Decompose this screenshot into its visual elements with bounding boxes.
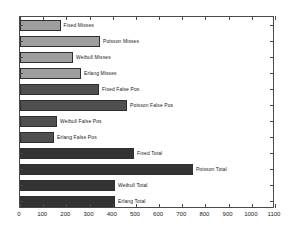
bar-label: Erlang Misses <box>84 71 117 76</box>
x-axis-tick-label: 200 <box>60 211 70 217</box>
y-axis-tick-left <box>19 89 23 90</box>
x-axis-tick-label: 100 <box>37 211 47 217</box>
bar-row: Fixed False Pos <box>20 84 275 95</box>
x-axis-tick-top <box>66 16 67 20</box>
x-axis-tick <box>20 204 21 208</box>
bar-label: Weibull Total <box>118 183 147 188</box>
y-axis-tick-right <box>270 105 274 106</box>
x-axis-tick-top <box>182 16 183 20</box>
y-axis-tick-right <box>270 41 274 42</box>
y-axis-tick-right <box>270 201 274 202</box>
bar-row: Fixed Misses <box>20 20 275 31</box>
y-axis-tick-right <box>270 89 274 90</box>
x-axis-tick-label: 300 <box>84 211 94 217</box>
x-axis-tick <box>229 204 230 208</box>
bar-label: Erlang False Pos <box>57 135 97 140</box>
y-axis-tick-right <box>270 185 274 186</box>
x-axis-tick <box>159 204 160 208</box>
y-axis-tick-right <box>270 57 274 58</box>
y-axis-tick-left <box>19 25 23 26</box>
bar <box>20 180 115 191</box>
plot-area: Fixed MissesPoisson MissesWeibull Misses… <box>19 16 274 208</box>
bar-label: Fixed False Pos <box>102 87 139 92</box>
x-axis-tick-label: 0 <box>17 211 20 217</box>
x-axis-tick-top <box>20 16 21 20</box>
bar <box>20 52 73 63</box>
x-axis-tick-top <box>90 16 91 20</box>
bar-label: Fixed Total <box>137 151 162 156</box>
bar-label: Weibull False Pos <box>60 119 102 124</box>
bar-row: Weibull Misses <box>20 52 275 63</box>
bar-label: Fixed Misses <box>64 23 94 28</box>
x-axis-tick <box>252 204 253 208</box>
y-axis-tick-right <box>270 153 274 154</box>
y-axis-tick-left <box>19 41 23 42</box>
bar-row: Poisson Misses <box>20 36 275 47</box>
bar <box>20 36 100 47</box>
x-axis-tick-label: 900 <box>223 211 233 217</box>
y-axis-tick-left <box>19 153 23 154</box>
bar <box>20 68 81 79</box>
x-axis-tick-label: 1100 <box>268 211 281 217</box>
x-axis-tick <box>182 204 183 208</box>
y-axis-tick-left <box>19 121 23 122</box>
x-axis-tick-top <box>229 16 230 20</box>
y-axis-tick-left <box>19 73 23 74</box>
x-axis-tick-top <box>113 16 114 20</box>
y-axis-tick-left <box>19 201 23 202</box>
y-axis-tick-left <box>19 57 23 58</box>
bar <box>20 84 99 95</box>
y-axis-tick-left <box>19 185 23 186</box>
bar <box>20 116 57 127</box>
bar <box>20 100 127 111</box>
y-axis-tick-right <box>270 169 274 170</box>
x-axis-tick-top <box>43 16 44 20</box>
bar <box>20 132 54 143</box>
bar-row: Poisson Total <box>20 164 275 175</box>
x-axis-tick-top <box>252 16 253 20</box>
bar <box>20 148 134 159</box>
y-axis-tick-right <box>270 121 274 122</box>
bar-label: Poisson Misses <box>103 39 139 44</box>
bar-row: Fixed Total <box>20 148 275 159</box>
x-axis-tick <box>275 204 276 208</box>
bar <box>20 164 193 175</box>
x-axis-tick <box>66 204 67 208</box>
x-axis-tick <box>136 204 137 208</box>
x-axis-tick <box>43 204 44 208</box>
bar-row: Weibull Total <box>20 180 275 191</box>
y-axis-tick-right <box>270 25 274 26</box>
bar-row: Erlang Misses <box>20 68 275 79</box>
x-axis-tick-top <box>159 16 160 20</box>
x-axis-tick-label: 500 <box>130 211 140 217</box>
bar <box>20 196 115 207</box>
x-axis-tick-top <box>275 16 276 20</box>
x-axis-tick-top <box>136 16 137 20</box>
y-axis-tick-right <box>270 137 274 138</box>
bar-row: Weibull False Pos <box>20 116 275 127</box>
x-axis-tick-label: 700 <box>176 211 186 217</box>
x-axis-tick-top <box>205 16 206 20</box>
bar-chart: Fixed MissesPoisson MissesWeibull Misses… <box>0 0 294 241</box>
bar-label: Poisson Total <box>196 167 227 172</box>
bar <box>20 20 61 31</box>
x-axis-tick <box>90 204 91 208</box>
y-axis-tick-right <box>270 73 274 74</box>
bar-label: Erlang Total <box>118 199 146 204</box>
bar-row: Poisson False Pos <box>20 100 275 111</box>
y-axis-tick-left <box>19 169 23 170</box>
x-axis-tick <box>113 204 114 208</box>
bar-row: Erlang False Pos <box>20 132 275 143</box>
x-axis-tick <box>205 204 206 208</box>
x-axis-tick-label: 400 <box>107 211 117 217</box>
x-axis-tick-label: 600 <box>153 211 163 217</box>
bar-label: Poisson False Pos <box>130 103 173 108</box>
x-axis-tick-label: 800 <box>199 211 209 217</box>
y-axis-tick-left <box>19 105 23 106</box>
bar-label: Weibull Misses <box>76 55 111 60</box>
x-axis-tick-label: 1000 <box>244 211 257 217</box>
bar-row: Erlang Total <box>20 196 275 207</box>
y-axis-tick-left <box>19 137 23 138</box>
